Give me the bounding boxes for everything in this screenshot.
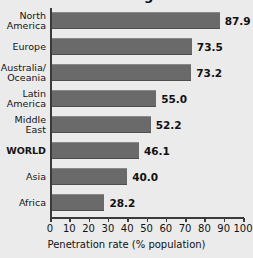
x-axis-tick	[147, 218, 149, 222]
category-label-line: Africa	[19, 198, 46, 209]
x-axis-tick	[89, 218, 91, 222]
bar-row: WORLD46.1	[0, 138, 253, 164]
x-axis-tick-label: 80	[198, 223, 211, 234]
bar-row: NorthAmerica87.9	[0, 8, 253, 34]
bar-row: MiddleEast52.2	[0, 112, 253, 138]
x-axis-tick-label: 100	[233, 223, 252, 234]
x-axis-title: Penetration rate (% population)	[0, 239, 253, 250]
chart-title: World Region	[0, 0, 253, 3]
bar-value-label: 55.0	[161, 90, 187, 107]
bar-value-label: 73.2	[196, 64, 222, 81]
bar-value-label: 28.2	[109, 194, 135, 211]
category-label: MiddleEast	[0, 112, 46, 138]
x-axis-tick	[243, 218, 245, 222]
category-label-line: America	[7, 21, 46, 32]
bar-row: Asia40.0	[0, 164, 253, 190]
bar-value-label: 52.2	[156, 116, 182, 133]
category-label-line: Europe	[13, 42, 46, 53]
x-axis-tick-label: 0	[47, 223, 53, 234]
x-axis-tick-label: 30	[102, 223, 115, 234]
bar-value-label: 40.0	[132, 168, 158, 185]
bar	[50, 90, 156, 107]
category-label: Europe	[0, 34, 46, 60]
x-axis-tick-label: 40	[121, 223, 134, 234]
bar	[50, 38, 192, 55]
x-axis-tick	[50, 218, 52, 222]
category-label-line: Oceania	[7, 73, 46, 84]
x-axis-tick-label: 60	[159, 223, 172, 234]
x-axis-tick-label: 90	[217, 223, 230, 234]
x-axis-tick-label: 10	[63, 223, 76, 234]
category-label-line: WORLD	[6, 146, 46, 157]
category-label: LatinAmerica	[0, 86, 46, 112]
x-axis-tick	[204, 218, 206, 222]
bar-row: LatinAmerica55.0	[0, 86, 253, 112]
bar-chart: World Region NorthAmerica87.9Europe73.5A…	[0, 0, 253, 258]
category-label: WORLD	[0, 138, 46, 164]
category-label: Africa	[0, 190, 46, 216]
category-label-line: Asia	[26, 172, 46, 183]
category-label: Asia	[0, 164, 46, 190]
bar	[50, 64, 191, 81]
y-axis-line	[50, 8, 52, 218]
bar-row: Europe73.5	[0, 34, 253, 60]
x-axis-tick	[166, 218, 168, 222]
bar	[50, 12, 220, 29]
x-axis-tick	[224, 218, 226, 222]
bar	[50, 142, 139, 159]
bar	[50, 194, 104, 211]
x-axis-tick	[69, 218, 71, 222]
category-label-line: East	[26, 125, 47, 136]
category-label: NorthAmerica	[0, 8, 46, 34]
x-axis-tick-label: 50	[140, 223, 153, 234]
bar-value-label: 87.9	[225, 12, 251, 29]
bar	[50, 168, 127, 185]
category-label: Australia/Oceania	[0, 60, 46, 86]
bar-value-label: 73.5	[197, 38, 223, 55]
bar-value-label: 46.1	[144, 142, 170, 159]
plot-area: NorthAmerica87.9Europe73.5Australia/Ocea…	[0, 8, 253, 216]
x-axis-tick-label: 20	[82, 223, 95, 234]
bar-row: Africa28.2	[0, 190, 253, 216]
x-axis-tick	[127, 218, 129, 222]
x-axis-tick	[185, 218, 187, 222]
x-axis-tick	[108, 218, 110, 222]
category-label-line: America	[7, 99, 46, 110]
bar	[50, 116, 151, 133]
x-axis-tick-label: 70	[179, 223, 192, 234]
bar-row: Australia/Oceania73.2	[0, 60, 253, 86]
